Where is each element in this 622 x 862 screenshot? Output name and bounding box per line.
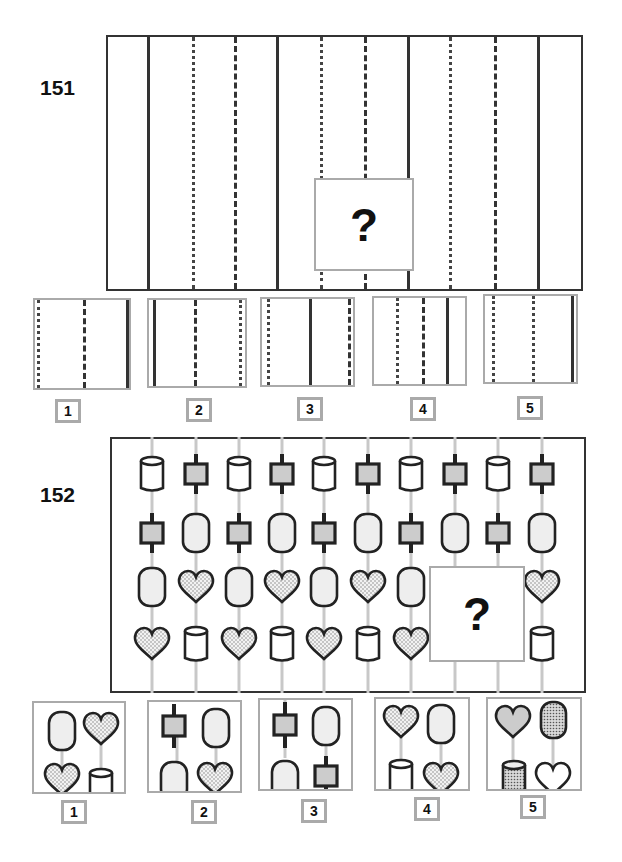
- line-solid: [126, 300, 129, 388]
- heart-icon: [198, 763, 232, 793]
- cylinder-icon: [390, 760, 412, 768]
- question-mark: ?: [463, 587, 491, 641]
- line-solid: [153, 300, 156, 386]
- capsule-icon: [272, 761, 298, 791]
- option-4-label[interactable]: 4: [410, 397, 436, 421]
- option-3-label[interactable]: 3: [301, 799, 327, 823]
- dotted-cylinder-icon: [503, 761, 525, 769]
- option-3-label[interactable]: 3: [297, 397, 323, 421]
- puzzle-151-option-3[interactable]: [260, 297, 355, 387]
- gray-heart-icon: [496, 706, 530, 737]
- line-dotted: [532, 296, 535, 382]
- puzzle-152-option-5[interactable]: [486, 697, 582, 791]
- option-1-label[interactable]: 1: [61, 800, 87, 824]
- puzzle-152-option-2[interactable]: [147, 700, 242, 793]
- line-dotted: [492, 296, 495, 382]
- question-mark: ?: [350, 198, 378, 252]
- puzzle-151-number: 151: [40, 76, 75, 100]
- line-solid: [276, 37, 279, 289]
- puzzle-151-option-4[interactable]: [372, 296, 467, 386]
- square-node-icon: [315, 766, 337, 786]
- square-node-icon: [163, 716, 185, 736]
- capsule-icon: [428, 705, 454, 743]
- line-dashed: [422, 298, 425, 384]
- heart-icon: [384, 706, 418, 737]
- capsule-icon: [203, 709, 229, 747]
- missing-piece-box: ?: [429, 566, 525, 662]
- line-dotted: [449, 37, 452, 289]
- line-dotted: [396, 298, 399, 384]
- option-1-label[interactable]: 1: [55, 399, 81, 423]
- puzzle-151-option-5[interactable]: [483, 294, 578, 384]
- line-dashed: [348, 299, 351, 385]
- puzzle-151-grid: ?: [106, 35, 583, 291]
- option-shapes: [147, 700, 242, 793]
- white-heart-icon: [536, 763, 570, 791]
- line-solid: [571, 296, 574, 382]
- line-dashed: [83, 300, 86, 388]
- heart-icon: [84, 713, 118, 744]
- puzzle-152-option-3[interactable]: [258, 698, 353, 791]
- line-solid: [309, 299, 312, 385]
- option-shapes: [258, 698, 353, 791]
- puzzle-151-option-2[interactable]: [147, 298, 247, 388]
- capsule-icon: [313, 707, 339, 745]
- line-solid: [446, 298, 449, 384]
- capsule-icon: [161, 762, 187, 793]
- option-4-label[interactable]: 4: [414, 797, 440, 821]
- line-dotted: [267, 299, 270, 385]
- missing-piece-box: ?: [314, 178, 414, 271]
- dotted-capsule-icon: [541, 702, 566, 738]
- line-dotted: [37, 300, 40, 388]
- option-shapes: [374, 697, 470, 791]
- line-dotted: [192, 37, 195, 289]
- puzzle-152-option-1[interactable]: [32, 701, 126, 794]
- option-shapes: [486, 697, 582, 791]
- line-dashed: [234, 37, 237, 289]
- option-2-label[interactable]: 2: [191, 800, 217, 824]
- option-shapes: [32, 701, 126, 794]
- heart-icon: [424, 763, 458, 791]
- square-node-icon: [274, 715, 296, 735]
- puzzle-152-number: 152: [40, 483, 75, 507]
- puzzle-152-grid: ?: [110, 437, 586, 693]
- line-dotted: [239, 300, 242, 386]
- puzzle-151-option-1[interactable]: [33, 298, 131, 390]
- line-solid: [537, 37, 540, 289]
- line-dashed: [494, 37, 497, 289]
- option-5-label[interactable]: 5: [520, 795, 546, 819]
- line-solid: [147, 37, 150, 289]
- cylinder-icon: [90, 769, 112, 777]
- heart-icon: [45, 764, 79, 794]
- puzzle-152-option-4[interactable]: [374, 697, 470, 791]
- option-2-label[interactable]: 2: [186, 398, 212, 422]
- capsule-icon: [49, 712, 75, 750]
- line-dashed: [194, 300, 197, 386]
- option-5-label[interactable]: 5: [517, 396, 543, 420]
